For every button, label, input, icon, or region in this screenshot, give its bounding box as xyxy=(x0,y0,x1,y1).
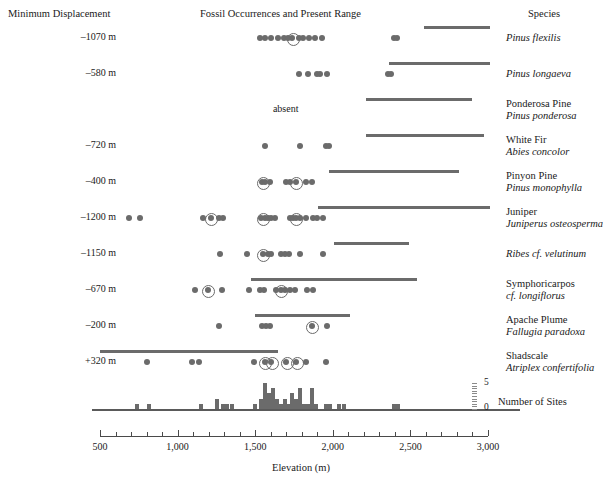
row-displacement-0: –1070 m xyxy=(0,31,116,42)
row-species-scientific-3: Abies concolor xyxy=(506,146,569,158)
elevation-axis-tick xyxy=(441,432,442,436)
row-fossil-ring-4-1 xyxy=(290,177,303,190)
histogram-scale-ticks xyxy=(472,383,478,409)
row-fossil-ring-6-0 xyxy=(257,249,270,262)
row-species-scientific-0: Pinus flexilis xyxy=(506,32,561,44)
row-fossil-dot-4-7 xyxy=(309,179,315,185)
row-species-scientific-8: Fallugia paradoxa xyxy=(506,326,585,338)
histogram-scale-tick xyxy=(472,409,477,410)
row-fossil-dot-1-0 xyxy=(296,71,302,77)
elevation-axis-tick xyxy=(116,432,117,436)
row-fossil-dot-7-0 xyxy=(192,287,198,293)
elevation-axis-tick xyxy=(317,432,318,436)
row-fossil-dot-6-1 xyxy=(244,251,250,257)
row-present-range-6 xyxy=(334,242,409,245)
elevation-axis-tick xyxy=(333,430,334,436)
row-displacement-1: –580 m xyxy=(0,67,116,78)
row-present-range-4 xyxy=(329,170,459,173)
row-absent-label-2: absent xyxy=(273,103,299,114)
header-species: Species xyxy=(528,8,560,19)
elevation-axis-tick xyxy=(209,432,210,436)
elevation-axis-tick xyxy=(426,432,427,436)
row-present-range-0 xyxy=(424,26,490,29)
histogram-scale-tick xyxy=(472,396,477,397)
histogram-scale-tick xyxy=(472,393,477,394)
elevation-axis-tick-label-1: 1,000 xyxy=(148,441,208,452)
row-fossil-dot-7-10 xyxy=(292,287,298,293)
row-fossil-dot-9-1 xyxy=(189,359,195,365)
row-species-scientific-9: Atriplex confertifolia xyxy=(506,362,594,374)
elevation-axis-tick xyxy=(348,432,349,436)
row-fossil-dot-6-7 xyxy=(286,251,292,257)
row-fossil-ring-9-1 xyxy=(266,357,279,370)
elevation-axis-tick-label-3: 2,000 xyxy=(303,441,363,452)
row-fossil-ring-7-1 xyxy=(275,285,288,298)
row-fossil-dot-9-0 xyxy=(144,359,150,365)
row-fossil-dot-4-6 xyxy=(303,179,309,185)
header-minimum-displacement: Minimum Displacement xyxy=(8,8,110,19)
row-fossil-dot-5-17 xyxy=(314,215,320,221)
histogram-scale-tick xyxy=(472,391,477,392)
row-fossil-dot-7-3 xyxy=(246,287,252,293)
row-species-scientific-6: Ribes cf. velutinum xyxy=(506,248,586,260)
row-fossil-dot-5-1 xyxy=(137,215,143,221)
elevation-axis-tick xyxy=(379,432,380,436)
row-fossil-ring-7-0 xyxy=(202,285,215,298)
row-fossil-dot-9-2 xyxy=(196,359,202,365)
row-fossil-dot-0-9 xyxy=(306,35,312,41)
row-displacement-6: –1150 m xyxy=(0,247,116,258)
row-present-range-8 xyxy=(255,314,350,317)
row-fossil-ring-5-1 xyxy=(257,213,270,226)
row-displacement-8: –200 m xyxy=(0,319,116,330)
row-fossil-dot-0-2 xyxy=(268,35,274,41)
elevation-axis-tick xyxy=(286,432,287,436)
row-fossil-dot-5-15 xyxy=(303,215,309,221)
row-species-scientific-5: Juniperus osteosperma xyxy=(506,218,603,230)
row-fossil-dot-0-13 xyxy=(394,35,400,41)
row-species-common-4: Pinyon Pine xyxy=(506,170,557,182)
elevation-axis-tick xyxy=(255,430,256,436)
row-fossil-ring-5-0 xyxy=(205,213,218,226)
histogram-scale-tick xyxy=(472,406,477,407)
histogram-scale-tick xyxy=(472,388,477,389)
elevation-axis-tick-label-2: 1,500 xyxy=(225,441,285,452)
row-fossil-dot-5-10 xyxy=(272,215,278,221)
row-species-common-2: Ponderosa Pine xyxy=(506,98,571,110)
elevation-axis-tick xyxy=(193,432,194,436)
row-displacement-5: –1200 m xyxy=(0,211,116,222)
row-fossil-dot-6-9 xyxy=(320,251,326,257)
histogram-bar-3 xyxy=(215,399,219,409)
elevation-axis-tick xyxy=(131,432,132,436)
row-fossil-dot-0-10 xyxy=(312,35,318,41)
elevation-axis-title: Elevation (m) xyxy=(0,462,602,473)
row-fossil-dot-9-3 xyxy=(251,359,257,365)
row-present-range-7 xyxy=(251,278,416,281)
row-fossil-ring-9-3 xyxy=(291,357,304,370)
row-displacement-7: –670 m xyxy=(0,283,116,294)
histogram-scale-min: 0 xyxy=(484,402,489,412)
elevation-axis-tick-label-0: 500 xyxy=(70,441,130,452)
row-species-common-7: Symphoricarpos xyxy=(506,278,575,290)
histogram-scale-tick xyxy=(472,399,477,400)
row-species-common-8: Apache Plume xyxy=(506,314,568,326)
histogram-scale-tick xyxy=(472,404,477,405)
row-fossil-dot-5-18 xyxy=(320,215,326,221)
elevation-axis-tick-label-5: 3,000 xyxy=(458,441,518,452)
row-fossil-dot-7-12 xyxy=(310,287,316,293)
row-fossil-dot-8-3 xyxy=(267,323,273,329)
row-fossil-dot-0-11 xyxy=(319,35,325,41)
row-present-range-1 xyxy=(389,62,489,65)
row-species-scientific-2: Pinus ponderosa xyxy=(506,110,577,122)
elevation-axis-tick xyxy=(224,432,225,436)
row-fossil-dot-1-3 xyxy=(317,71,323,77)
elevation-axis-tick xyxy=(472,432,473,436)
row-fossil-dot-6-8 xyxy=(297,251,303,257)
row-fossil-dot-3-1 xyxy=(297,143,303,149)
row-displacement-9: +320 m xyxy=(0,355,116,366)
row-fossil-dot-0-3 xyxy=(275,35,281,41)
row-fossil-ring-0-0 xyxy=(287,33,300,46)
header-fossil-occurrences: Fossil Occurrences and Present Range xyxy=(200,8,361,19)
row-fossil-dot-3-3 xyxy=(326,143,332,149)
elevation-axis-tick xyxy=(178,430,179,436)
